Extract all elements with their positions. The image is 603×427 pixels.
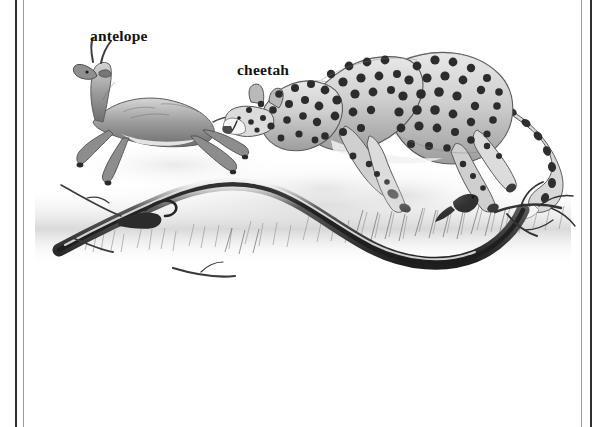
figure-label-cheetah: cheetah [237,61,289,79]
frame-rule-outer-left [15,0,17,427]
frame-rule-inner-right [581,0,582,427]
page-canvas: antelope cheetah [0,0,603,427]
frame-rule-inner-left [23,0,24,427]
figure-label-antelope: antelope [90,27,148,45]
frame-rule-outer-right [590,0,592,427]
figure-illustration [25,0,581,300]
